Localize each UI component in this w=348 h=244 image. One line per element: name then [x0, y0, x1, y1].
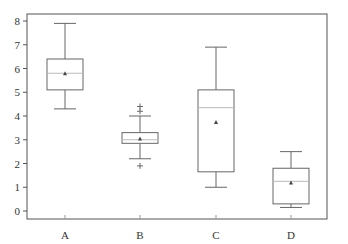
box-group-b [122, 104, 158, 169]
x-tick-label: B [136, 229, 143, 241]
y-tick-label: 5 [15, 86, 21, 98]
y-tick-label: 7 [15, 39, 21, 51]
y-tick-label: 0 [15, 205, 21, 217]
plot-area: 012345678ABCD [0, 0, 348, 244]
box-plot-chart: 012345678ABCD [0, 0, 348, 244]
box-group-a [47, 23, 83, 109]
y-tick-label: 3 [15, 134, 21, 146]
outlier-plus-icon [137, 104, 143, 110]
y-axis: 012345678 [15, 15, 28, 217]
y-tick-label: 1 [15, 181, 21, 193]
x-tick-label: A [61, 229, 69, 241]
y-tick-label: 4 [15, 110, 21, 122]
outlier-plus-icon [137, 163, 143, 169]
x-tick-label: C [212, 229, 219, 241]
iqr-box [273, 168, 309, 204]
y-tick-label: 6 [15, 63, 21, 75]
y-tick-label: 2 [15, 158, 21, 170]
x-tick-label: D [287, 229, 295, 241]
iqr-box [198, 90, 234, 172]
box-group-d [273, 152, 309, 208]
box-group-c [198, 47, 234, 187]
y-tick-label: 8 [15, 15, 21, 27]
